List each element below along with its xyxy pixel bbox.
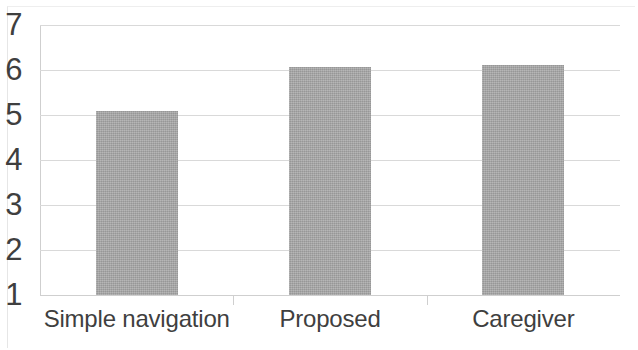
- x-axis-tick: [427, 296, 428, 305]
- y-axis-tick-label: 3: [0, 189, 22, 220]
- y-axis-tick-label: 5: [0, 99, 22, 130]
- bar-chart-figure: 7654321Simple navigationProposedCaregive…: [0, 0, 638, 350]
- y-axis-tick-label: 4: [0, 144, 22, 175]
- gridline-1: [40, 295, 620, 296]
- bar-caregiver: [482, 65, 564, 295]
- y-axis-tick-label: 6: [0, 54, 22, 85]
- x-axis-tick: [233, 296, 234, 305]
- x-axis-category-label: Proposed: [233, 307, 426, 331]
- y-axis-tick-label: 1: [0, 279, 22, 310]
- gridline-7: [40, 25, 620, 26]
- y-axis-tick-label: 7: [0, 9, 22, 40]
- x-axis-category-label: Caregiver: [427, 307, 620, 331]
- bar-proposed: [289, 67, 371, 295]
- y-axis-tick-label: 2: [0, 234, 22, 265]
- x-axis-category-label: Simple navigation: [40, 307, 233, 331]
- bar-simple-navigation: [96, 111, 178, 295]
- plot-area: [40, 25, 620, 295]
